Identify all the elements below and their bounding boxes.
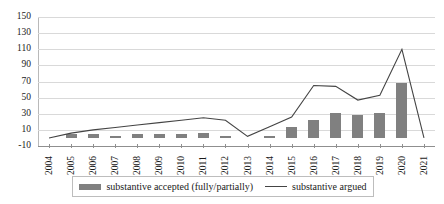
y-axis-tick-label: 50	[22, 93, 32, 103]
y-axis-tick-label: 130	[17, 28, 31, 38]
y-axis-tick-label: 150	[17, 12, 31, 22]
axis-baseline	[38, 146, 435, 147]
x-axis-tick-mark	[336, 144, 337, 148]
x-axis-tick-label: 2020	[397, 156, 407, 175]
y-axis-labels: 1501301109070503010-10	[0, 17, 34, 146]
x-axis-tick-mark	[115, 144, 116, 148]
y-axis-tick-label: -10	[18, 141, 31, 151]
x-axis-tick-label: 2007	[110, 156, 120, 175]
x-axis-tick-mark	[181, 144, 182, 148]
legend-label-substantive-argued: substantive argued	[292, 181, 367, 192]
y-axis-tick-label: 70	[22, 77, 32, 87]
x-axis-tick-mark	[49, 144, 50, 148]
x-axis-tick-mark	[159, 144, 160, 148]
x-axis-tick-label: 2019	[375, 156, 385, 175]
x-axis-tick-label: 2012	[220, 156, 230, 175]
x-axis-tick-label: 2017	[331, 156, 341, 175]
line-series-substantive-argued	[38, 17, 435, 146]
x-axis-tick-label: 2004	[44, 156, 54, 175]
chart-container: 1501301109070503010-10 20042005200620072…	[0, 0, 444, 204]
x-axis-tick-mark	[314, 144, 315, 148]
y-axis-tick-label: 110	[17, 45, 31, 55]
x-axis-tick-label: 2011	[198, 156, 208, 175]
y-axis-tick-label: 10	[22, 125, 32, 135]
x-axis-tick-label: 2008	[132, 156, 142, 175]
legend-entry-substantive-accepted: substantive accepted (fully/partially)	[79, 181, 253, 192]
x-axis-tick-mark	[248, 144, 249, 148]
x-axis-tick-mark	[292, 144, 293, 148]
x-axis-tick-mark	[270, 144, 271, 148]
x-axis-tick-label: 2010	[176, 156, 186, 175]
x-axis-tick-label: 2021	[419, 156, 429, 175]
x-axis-tick-mark	[402, 144, 403, 148]
plot-area	[38, 17, 435, 146]
legend-label-substantive-accepted: substantive accepted (fully/partially)	[106, 181, 253, 192]
bar-swatch-icon	[79, 184, 101, 190]
x-axis-tick-label: 2014	[265, 156, 275, 175]
x-axis-tick-label: 2015	[287, 156, 297, 175]
line-swatch-icon	[265, 186, 287, 187]
x-axis-tick-label: 2009	[154, 156, 164, 175]
x-axis-tick-mark	[225, 144, 226, 148]
y-axis-tick-label: 90	[22, 61, 32, 71]
x-axis-tick-mark	[93, 144, 94, 148]
legend-entry-substantive-argued: substantive argued	[265, 181, 367, 192]
x-axis-tick-mark	[380, 144, 381, 148]
x-axis-labels: 2004200520062007200820092010201120122013…	[38, 148, 435, 176]
x-axis-tick-mark	[137, 144, 138, 148]
x-axis-tick-label: 2018	[353, 156, 363, 175]
y-axis-tick-label: 30	[22, 109, 32, 119]
x-axis-tick-mark	[358, 144, 359, 148]
x-axis-tick-mark	[424, 144, 425, 148]
x-axis-tick-label: 2006	[88, 156, 98, 175]
x-axis-tick-mark	[71, 144, 72, 148]
x-axis-tick-label: 2005	[66, 156, 76, 175]
x-axis-tick-label: 2016	[309, 156, 319, 175]
x-axis-tick-mark	[203, 144, 204, 148]
chart-legend: substantive accepted (fully/partially) s…	[72, 176, 374, 197]
x-axis-tick-label: 2013	[243, 156, 253, 175]
